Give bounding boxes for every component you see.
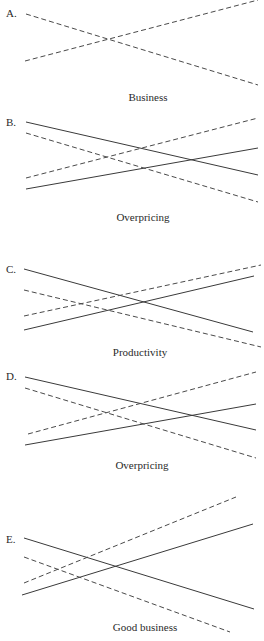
solid-line-ascending [25,404,256,445]
panel-letter: E. [6,533,16,545]
panel-letter: D. [6,370,17,382]
panel-letter: C. [6,263,16,275]
dashed-line-descending [25,388,256,458]
panel-caption: Good business [113,621,177,633]
panel-d: D. Overpricing [6,370,256,471]
solid-line-ascending [22,524,253,595]
panel-a: A. Business [6,0,258,103]
dashed-line-ascending [24,497,236,583]
dashed-line-ascending [24,265,261,316]
panel-e: E. Good business [6,497,254,633]
panel-c: C. Productivity [6,263,261,358]
dashed-line-ascending [25,0,258,61]
dashed-line-descending [24,290,261,347]
panel-caption: Overpricing [116,211,170,223]
solid-line-ascending [24,276,254,330]
dashed-line-descending [26,14,258,85]
panel-b: B. Overpricing [6,116,258,223]
panel-caption: Productivity [113,346,168,358]
panel-caption: Business [128,91,167,103]
solid-line-descending [24,269,253,332]
panel-letter: A. [6,7,17,19]
panel-letter: B. [6,116,16,128]
crossing-lines-diagram: A. Business B. Overpricing C. Productivi… [0,0,264,641]
panel-caption: Overpricing [115,459,169,471]
